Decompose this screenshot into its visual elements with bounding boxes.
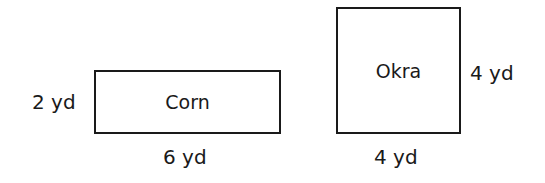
okra-width-label: 4 yd	[374, 147, 418, 167]
okra-height-label: 4 yd	[470, 63, 514, 83]
corn-rectangle: Corn	[94, 70, 281, 134]
okra-label: Okra	[376, 60, 421, 82]
corn-label: Corn	[165, 91, 209, 113]
okra-square: Okra	[336, 7, 461, 134]
corn-width-label: 6 yd	[163, 147, 207, 167]
corn-height-label: 2 yd	[32, 92, 76, 112]
